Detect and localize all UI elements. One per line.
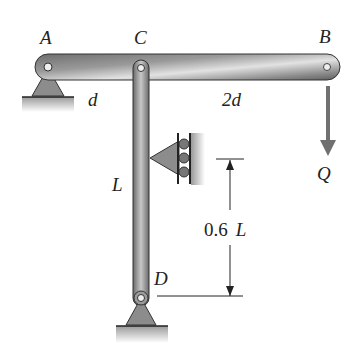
dimension-value: 0.6 [204, 219, 228, 240]
label-dimension: 0.6 L [204, 219, 246, 240]
pin-a [44, 63, 52, 71]
bar-cd [133, 60, 149, 306]
roller-support [150, 133, 205, 185]
pin-c [138, 65, 145, 72]
ground-d [116, 326, 168, 343]
label-q: Q [317, 163, 331, 184]
load-arrow-q [320, 86, 336, 156]
label-d-distance: d [88, 89, 98, 110]
label-c: C [134, 27, 147, 48]
wall [191, 133, 205, 185]
beam-ab [35, 54, 340, 80]
label-b: B [319, 26, 331, 47]
dimension-unit: L [235, 219, 247, 240]
structure-diagram: A C B d 2d L Q D 0.6 L [0, 0, 355, 360]
label-d-point: D [153, 268, 168, 289]
label-2d-distance: 2d [222, 89, 242, 110]
label-a: A [38, 27, 52, 48]
pin-support-d [116, 291, 168, 343]
pin-b [324, 64, 331, 71]
pin-d [138, 295, 145, 302]
label-l: L [111, 174, 123, 195]
ground-a [22, 97, 74, 112]
